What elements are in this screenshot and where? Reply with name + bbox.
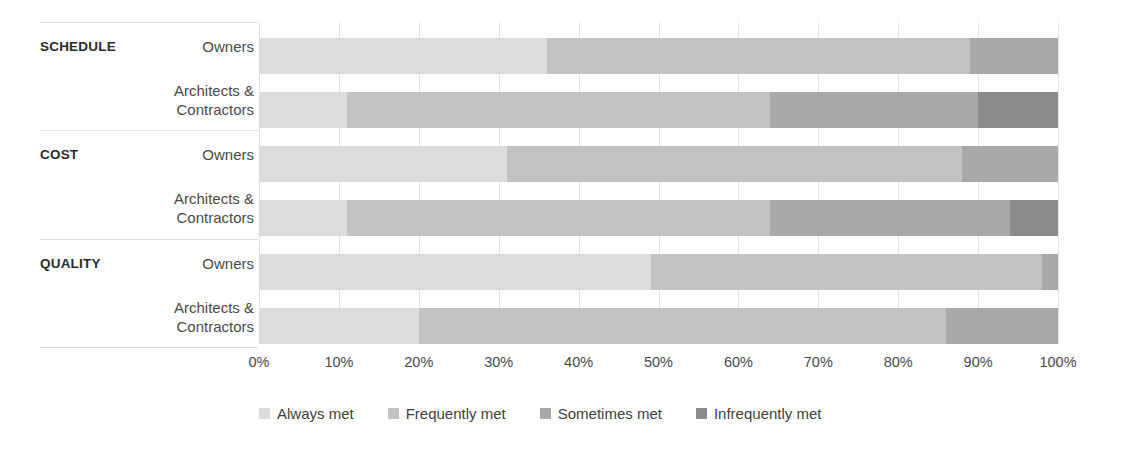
- x-tick-label-20%: 20%: [404, 354, 433, 370]
- legend-label: Sometimes met: [558, 405, 662, 422]
- group-label-schedule: SCHEDULE: [40, 39, 116, 54]
- legend-swatch-icon: [540, 408, 551, 419]
- x-tick-label-70%: 70%: [804, 354, 833, 370]
- group-block-schedule: SCHEDULE Owners Architects & Contractors: [40, 22, 258, 130]
- bar-row: [259, 38, 1058, 74]
- legend-label: Infrequently met: [714, 405, 822, 422]
- row-label-quality-owners: Owners: [202, 254, 254, 273]
- bar-segment-sometimes-met: [962, 146, 1058, 182]
- bar-segment-sometimes-met: [770, 200, 1010, 236]
- bar-segment-infrequently-met: [1010, 200, 1058, 236]
- bar-row: [259, 92, 1058, 128]
- legend-item-infrequently-met[interactable]: Infrequently met: [696, 405, 822, 422]
- bar-segment-always-met: [259, 308, 419, 344]
- bar-segment-infrequently-met: [978, 92, 1058, 128]
- bar-segment-sometimes-met: [946, 308, 1058, 344]
- row-label-quality-architects-contractors: Architects & Contractors: [174, 298, 254, 336]
- bar-segment-frequently-met: [507, 146, 962, 182]
- row-label-cost-owners: Owners: [202, 145, 254, 164]
- legend-swatch-icon: [259, 408, 270, 419]
- bar-segment-always-met: [259, 200, 347, 236]
- bar-segment-always-met: [259, 92, 347, 128]
- x-tick-label-80%: 80%: [884, 354, 913, 370]
- bar-row: [259, 254, 1058, 290]
- x-tick-label-50%: 50%: [644, 354, 673, 370]
- bar-segment-frequently-met: [651, 254, 1043, 290]
- group-block-quality: QUALITY Owners Architects & Contractors: [40, 239, 258, 348]
- bar-segment-sometimes-met: [970, 38, 1058, 74]
- bar-segment-frequently-met: [347, 200, 770, 236]
- row-label-cost-architects-contractors: Architects & Contractors: [174, 189, 254, 227]
- legend-label: Frequently met: [406, 405, 506, 422]
- x-tick-label-100%: 100%: [1039, 354, 1076, 370]
- legend-item-sometimes-met[interactable]: Sometimes met: [540, 405, 662, 422]
- x-tick-label-0%: 0%: [249, 354, 270, 370]
- bar-row: [259, 146, 1058, 182]
- bar-segment-frequently-met: [547, 38, 970, 74]
- bar-segment-sometimes-met: [770, 92, 978, 128]
- bar-segment-frequently-met: [419, 308, 946, 344]
- plot-area: [259, 22, 1058, 344]
- legend-item-always-met[interactable]: Always met: [259, 405, 354, 422]
- group-label-quality: QUALITY: [40, 256, 101, 271]
- x-tick-label-60%: 60%: [724, 354, 753, 370]
- chart-legend: Always metFrequently metSometimes metInf…: [259, 400, 1058, 426]
- row-label-schedule-owners: Owners: [202, 37, 254, 56]
- group-label-cost: COST: [40, 147, 78, 162]
- bar-segment-sometimes-met: [1042, 254, 1058, 290]
- legend-item-frequently-met[interactable]: Frequently met: [388, 405, 506, 422]
- bar-segment-frequently-met: [347, 92, 770, 128]
- stacked-bar-chart: SCHEDULE Owners Architects & Contractors…: [0, 0, 1128, 449]
- category-label-column: SCHEDULE Owners Architects & Contractors…: [40, 22, 258, 344]
- gridline-100%: [1058, 22, 1059, 344]
- legend-swatch-icon: [388, 408, 399, 419]
- bar-row: [259, 308, 1058, 344]
- legend-swatch-icon: [696, 408, 707, 419]
- bar-segment-always-met: [259, 146, 507, 182]
- row-label-schedule-architects-contractors: Architects & Contractors: [174, 81, 254, 119]
- bar-segment-always-met: [259, 254, 651, 290]
- bar-row: [259, 200, 1058, 236]
- x-tick-label-30%: 30%: [484, 354, 513, 370]
- group-block-cost: COST Owners Architects & Contractors: [40, 130, 258, 238]
- bar-segment-always-met: [259, 38, 547, 74]
- legend-label: Always met: [277, 405, 354, 422]
- x-tick-label-90%: 90%: [964, 354, 993, 370]
- x-axis: 0%10%20%30%40%50%60%70%80%90%100%: [259, 348, 1058, 374]
- x-tick-label-10%: 10%: [324, 354, 353, 370]
- x-tick-label-40%: 40%: [564, 354, 593, 370]
